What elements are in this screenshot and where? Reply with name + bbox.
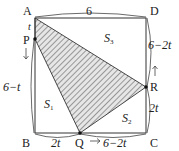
region-S1: S1 (44, 97, 54, 112)
dim-CR: 2t (149, 101, 159, 115)
arrow-right-icon (90, 139, 100, 144)
label-P: P (23, 33, 30, 47)
point-Q (78, 131, 82, 135)
label-A: A (23, 4, 32, 18)
arrow-up-icon (153, 66, 158, 76)
dim-AP: t (28, 21, 31, 32)
dim-QC: 6−2t (103, 136, 127, 150)
brace-left-PB (31, 40, 34, 133)
arrow-down-icon (24, 48, 29, 59)
square-diagram: A D B C P Q R 6 t 6−t 2t 6−2t 2t 6−2t S3… (0, 0, 179, 151)
region-S2: S2 (122, 111, 132, 126)
point-R (144, 85, 148, 89)
dim-PB: 6−t (3, 80, 21, 94)
dim-BQ: 2t (51, 136, 61, 150)
shaded-region (35, 18, 146, 133)
brace-right-RD (147, 18, 151, 87)
point-P (33, 37, 37, 41)
dim-RD: 6−2t (148, 38, 172, 52)
label-D: D (150, 4, 159, 18)
label-Q: Q (75, 136, 84, 150)
dim-top: 6 (86, 4, 92, 18)
region-S3: S3 (104, 31, 114, 46)
label-B: B (22, 136, 30, 150)
label-C: C (150, 136, 158, 150)
label-R: R (150, 80, 158, 94)
